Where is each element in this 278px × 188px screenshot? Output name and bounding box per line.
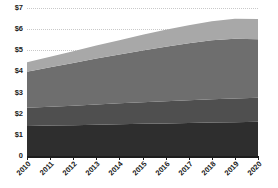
y-axis-tick-label: $6: [1, 25, 23, 33]
plot-area: [27, 8, 258, 156]
y-axis-tick-label: $3: [1, 89, 23, 97]
y-axis-tick-label: $1: [1, 131, 23, 139]
x-axis-tick-label: 2010: [6, 160, 33, 187]
x-axis-tick-label: 2015: [121, 160, 148, 187]
x-axis-tick-label: 2012: [52, 160, 79, 187]
x-axis-tick-label: 2017: [167, 160, 194, 187]
stacked-area-bands: [27, 8, 258, 156]
chart-container: 0$1$2$3$4$5$6$7 201020112012201320142015…: [0, 0, 278, 188]
x-axis-tick-label: 2013: [75, 160, 102, 187]
x-axis-tick-label: 2011: [29, 160, 56, 187]
y-axis-tick-label: $7: [1, 4, 23, 12]
x-axis-tick-label: 2016: [144, 160, 171, 187]
x-axis-tick-label: 2019: [214, 160, 241, 187]
x-axis-tick: [258, 157, 259, 160]
x-axis-tick: [143, 157, 144, 160]
x-axis-tick-label: 2020: [237, 160, 264, 187]
y-axis-tick-label: $5: [1, 46, 23, 54]
x-axis-tick: [212, 157, 213, 160]
x-axis-tick: [189, 157, 190, 160]
x-axis-tick: [73, 157, 74, 160]
x-axis-tick: [27, 157, 28, 160]
x-axis-tick: [166, 157, 167, 160]
area-band-1: [27, 122, 258, 156]
x-axis-tick: [119, 157, 120, 160]
y-axis-tick-label: $2: [1, 110, 23, 118]
x-axis-tick: [235, 157, 236, 160]
y-axis-tick-label: 0: [1, 152, 23, 160]
x-axis-tick-label: 2018: [191, 160, 218, 187]
x-axis-tick: [50, 157, 51, 160]
x-axis-tick-label: 2014: [98, 160, 125, 187]
y-axis-tick-label: $4: [1, 67, 23, 75]
x-axis-tick: [96, 157, 97, 160]
